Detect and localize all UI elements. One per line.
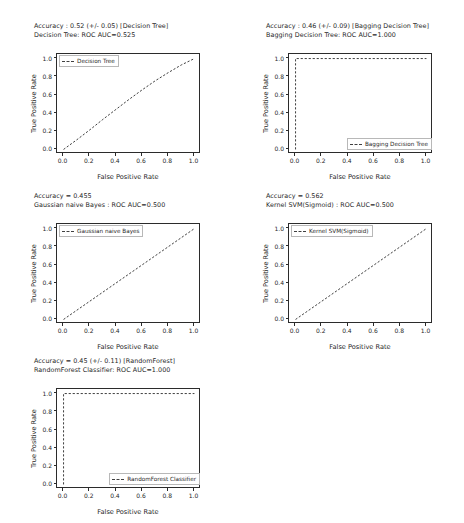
y-axis-label: True Positive Rate <box>262 74 270 133</box>
series-line <box>64 59 195 150</box>
y-tick-label: 1.0 <box>34 224 52 231</box>
x-tick-mark <box>141 323 142 326</box>
x-tick-mark <box>193 488 194 491</box>
x-tick-mark <box>167 153 168 156</box>
series-line <box>296 229 427 320</box>
y-tick-label: 1.0 <box>266 54 284 61</box>
legend: Bagging Decision Tree <box>347 138 432 150</box>
y-tick-mark <box>54 148 57 149</box>
plot-area <box>56 223 200 323</box>
y-tick-mark <box>54 282 57 283</box>
chart-title-line2: Bagging Decision Tree: ROC AUC=1.000 <box>266 31 464 40</box>
y-tick-mark <box>54 227 57 228</box>
x-tick-label: 0.8 <box>162 492 172 499</box>
x-tick-label: 0.2 <box>84 327 94 334</box>
x-tick-mark <box>347 153 348 156</box>
legend: Kernel SVM(Sigmoid) <box>291 225 373 237</box>
chart-title-line1: Accuracy = 0.45 (+/- 0.11) [RandomForest… <box>34 357 234 366</box>
legend: RandomForest Classifier <box>109 473 200 485</box>
chart-title: Accuracy : 0.46 (+/- 0.09) [Bagging Deci… <box>266 22 464 39</box>
x-tick-label: 1.0 <box>421 157 431 164</box>
y-axis-label: True Positive Rate <box>30 74 38 133</box>
y-tick-mark <box>286 245 289 246</box>
legend-label: Decision Tree <box>77 58 115 65</box>
x-tick-label: 0.6 <box>368 157 378 164</box>
y-tick-mark <box>54 112 57 113</box>
y-tick-mark <box>286 94 289 95</box>
x-tick-mark <box>320 153 321 156</box>
y-tick-mark <box>54 300 57 301</box>
plot-area <box>288 223 432 323</box>
y-tick-mark <box>54 57 57 58</box>
subplot-2: Accuracy = 0.455Gaussian naive Bayes : R… <box>12 188 227 356</box>
x-tick-label: 0.4 <box>342 157 352 164</box>
x-tick-label: 0.0 <box>58 327 68 334</box>
x-tick-mark <box>88 488 89 491</box>
x-tick-mark <box>399 323 400 326</box>
chart-title: Accuracy = 0.562Kernel SVM(Sigmoid) : RO… <box>266 192 464 209</box>
subplot-0: Accuracy : 0.52 (+/- 0.05) [Decision Tre… <box>12 18 227 186</box>
subplot-4: Accuracy = 0.45 (+/- 0.11) [RandomForest… <box>12 353 227 521</box>
y-tick-mark <box>286 75 289 76</box>
x-tick-label: 0.0 <box>58 492 68 499</box>
x-tick-mark <box>193 153 194 156</box>
y-axis-label: True Positive Rate <box>30 244 38 303</box>
x-tick-mark <box>115 153 116 156</box>
legend-line-swatch-icon <box>62 61 74 62</box>
y-tick-label: 0.0 <box>266 315 284 322</box>
x-tick-label: 0.0 <box>58 157 68 164</box>
x-tick-label: 0.6 <box>368 327 378 334</box>
x-tick-label: 0.2 <box>84 157 94 164</box>
y-tick-mark <box>286 148 289 149</box>
x-tick-mark <box>425 153 426 156</box>
x-tick-label: 0.4 <box>342 327 352 334</box>
x-tick-label: 0.2 <box>316 157 326 164</box>
x-tick-mark <box>62 323 63 326</box>
y-tick-mark <box>54 392 57 393</box>
y-tick-label: 1.0 <box>34 54 52 61</box>
roc-curves-figure: Accuracy : 0.52 (+/- 0.05) [Decision Tre… <box>0 0 464 523</box>
x-tick-mark <box>62 488 63 491</box>
x-tick-label: 0.8 <box>394 327 404 334</box>
legend-line-swatch-icon <box>62 231 74 232</box>
x-tick-mark <box>347 323 348 326</box>
x-tick-mark <box>88 153 89 156</box>
x-tick-label: 0.8 <box>162 327 172 334</box>
legend-label: Kernel SVM(Sigmoid) <box>309 228 369 235</box>
x-tick-label: 1.0 <box>189 157 199 164</box>
x-tick-label: 0.4 <box>110 327 120 334</box>
x-tick-label: 0.4 <box>110 157 120 164</box>
legend: Gaussian naive Bayes <box>59 225 143 237</box>
y-tick-mark <box>286 282 289 283</box>
x-tick-mark <box>115 323 116 326</box>
y-tick-mark <box>54 130 57 131</box>
x-axis-label: False Positive Rate <box>288 173 432 181</box>
plot-area <box>56 53 200 153</box>
x-tick-label: 0.6 <box>136 157 146 164</box>
x-tick-label: 0.6 <box>136 492 146 499</box>
y-tick-mark <box>286 300 289 301</box>
y-tick-mark <box>54 447 57 448</box>
subplot-1: Accuracy : 0.46 (+/- 0.09) [Bagging Deci… <box>244 18 459 186</box>
x-axis-label: False Positive Rate <box>288 343 432 351</box>
x-tick-mark <box>294 323 295 326</box>
x-tick-mark <box>167 323 168 326</box>
x-tick-label: 0.8 <box>162 157 172 164</box>
x-tick-mark <box>167 488 168 491</box>
chart-title: Accuracy = 0.45 (+/- 0.11) [RandomForest… <box>34 357 234 374</box>
y-axis-label: True Positive Rate <box>30 409 38 468</box>
x-tick-mark <box>373 153 374 156</box>
x-axis-label: False Positive Rate <box>56 508 200 516</box>
y-tick-label: 0.0 <box>34 480 52 487</box>
chart-title-line1: Accuracy : 0.52 (+/- 0.05) [Decision Tre… <box>34 22 234 31</box>
x-tick-label: 0.2 <box>316 327 326 334</box>
chart-title-line2: RandomForest Classifier: ROC AUC=1.000 <box>34 366 234 375</box>
series-line <box>64 394 195 485</box>
y-tick-mark <box>54 465 57 466</box>
y-tick-mark <box>286 130 289 131</box>
series-line <box>296 59 427 150</box>
x-tick-label: 0.4 <box>110 492 120 499</box>
y-tick-label: 0.0 <box>266 145 284 152</box>
y-tick-mark <box>54 483 57 484</box>
subplot-3: Accuracy = 0.562Kernel SVM(Sigmoid) : RO… <box>244 188 459 356</box>
